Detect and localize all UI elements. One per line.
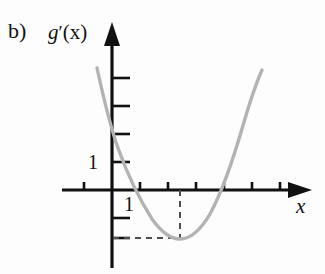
function-name: g <box>48 20 59 44</box>
function-argument: (x) <box>63 20 88 44</box>
function-label: g′(x) <box>48 22 87 43</box>
x-axis-tick-label-one: 1 <box>124 194 134 214</box>
y-axis-tick-label-one: 1 <box>88 152 98 172</box>
part-label: b) <box>8 20 26 42</box>
graph-figure: b) g′(x) 1 1 x <box>0 0 325 274</box>
y-axis-arrowhead <box>104 22 120 46</box>
x-axis-label: x <box>296 196 305 217</box>
